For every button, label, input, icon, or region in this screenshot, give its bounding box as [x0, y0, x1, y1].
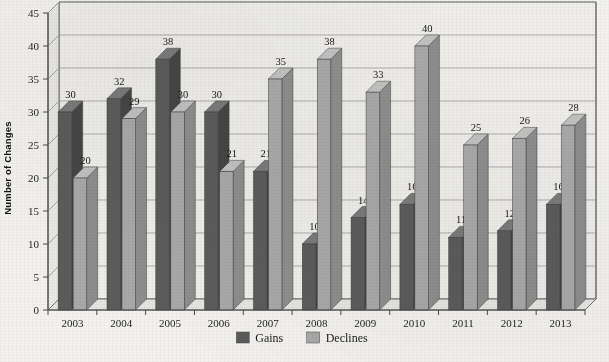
bar-value-label: 29	[129, 96, 140, 107]
bar-front-face	[400, 204, 414, 310]
x-tick-label: 2008	[306, 317, 329, 329]
bar-front-face	[415, 46, 429, 310]
y-axis-title: Number of Changes	[2, 121, 13, 215]
y-tick-label: 10	[28, 238, 40, 250]
bar-column: 26	[513, 115, 538, 310]
bar-value-label: 40	[422, 23, 433, 34]
bar-column: 29	[122, 96, 147, 310]
bar-column: 28	[561, 102, 586, 310]
y-tick-label: 40	[28, 40, 40, 52]
bar-front-face	[351, 218, 365, 310]
bar-side-face	[87, 167, 98, 310]
bar-value-label: 20	[80, 155, 91, 166]
bar-column: 35	[268, 56, 293, 310]
x-tick-label: 2013	[550, 317, 573, 329]
bar-column: 20	[73, 155, 98, 310]
x-tick-label: 2012	[501, 317, 523, 329]
x-tick-label: 2010	[403, 317, 426, 329]
bar-value-label: 25	[471, 122, 482, 133]
bar-front-face	[220, 171, 234, 310]
bar-side-face	[135, 108, 146, 310]
x-tick-label: 2011	[452, 317, 474, 329]
legend-label: Gains	[255, 331, 283, 345]
bar-front-face	[366, 92, 380, 310]
y-tick-label: 0	[34, 304, 40, 316]
chart-figure: 051015202530354045Number of Changes30203…	[0, 0, 609, 362]
bar-front-face	[449, 237, 463, 310]
bar-column: 40	[415, 23, 440, 310]
bar-column: 30	[171, 89, 196, 310]
bar-front-face	[513, 138, 527, 310]
bar-column: 33	[366, 69, 391, 310]
legend-swatch	[236, 332, 249, 343]
bar-front-face	[171, 112, 185, 310]
legend-label: Declines	[326, 331, 368, 345]
bar-value-label: 30	[65, 89, 76, 100]
bar-side-face	[428, 35, 439, 310]
bar-front-face	[561, 125, 575, 310]
bar-chart-3d: 051015202530354045Number of Changes30203…	[0, 0, 609, 362]
bar-side-face	[477, 134, 488, 310]
bar-front-face	[498, 231, 512, 310]
bar-value-label: 26	[520, 115, 531, 126]
y-tick-label: 5	[34, 271, 40, 283]
bar-value-label: 33	[373, 69, 384, 80]
x-tick-label: 2009	[354, 317, 377, 329]
x-tick-label: 2003	[61, 317, 84, 329]
x-tick-label: 2006	[208, 317, 231, 329]
y-tick-label: 30	[28, 106, 40, 118]
left-wall	[48, 2, 59, 310]
bar-value-label: 38	[324, 36, 335, 47]
bar-column: 38	[317, 36, 342, 310]
x-tick-label: 2005	[159, 317, 182, 329]
y-tick-label: 45	[28, 7, 40, 19]
bar-side-face	[575, 114, 586, 310]
bar-side-face	[233, 160, 244, 310]
bar-value-label: 35	[275, 56, 286, 67]
chart-legend: GainsDeclines	[236, 331, 368, 345]
legend-swatch	[307, 332, 320, 343]
bar-side-face	[331, 48, 342, 310]
bar-value-label: 30	[212, 89, 223, 100]
bar-front-face	[156, 59, 170, 310]
y-tick-label: 35	[28, 73, 40, 85]
y-tick-label: 25	[28, 139, 40, 151]
bar-front-face	[58, 112, 71, 310]
y-tick-label: 20	[28, 172, 40, 184]
bar-value-label: 28	[568, 102, 579, 113]
bar-value-label: 21	[227, 148, 238, 159]
x-tick-label: 2007	[257, 317, 280, 329]
y-tick-label: 15	[28, 205, 40, 217]
bar-column: 25	[464, 122, 489, 310]
bar-front-face	[464, 145, 478, 310]
y-axis-title-label: Number of Changes	[2, 121, 13, 215]
bar-value-label: 30	[178, 89, 189, 100]
bar-front-face	[546, 204, 560, 310]
bar-front-face	[268, 79, 282, 310]
bar-front-face	[253, 171, 267, 310]
bar-front-face	[317, 59, 331, 310]
bar-side-face	[380, 81, 391, 310]
bar-side-face	[282, 68, 293, 310]
bar-column: 21	[220, 148, 245, 310]
bar-side-face	[526, 127, 537, 310]
bar-value-label: 32	[114, 76, 125, 87]
bar-front-face	[73, 178, 87, 310]
bar-value-label: 38	[163, 36, 174, 47]
bar-front-face	[122, 119, 135, 310]
bar-side-face	[184, 101, 195, 310]
bar-front-face	[302, 244, 316, 310]
x-tick-label: 2004	[110, 317, 133, 329]
bar-front-face	[107, 99, 121, 310]
bar-front-face	[205, 112, 219, 310]
